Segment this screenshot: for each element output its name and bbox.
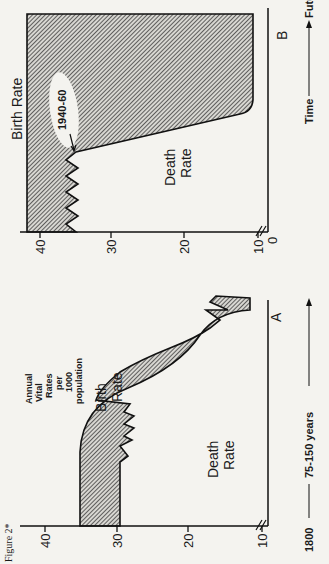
svg-text:Rate: Rate <box>109 372 125 402</box>
svg-text:75-150 years: 75-150 years <box>303 412 315 478</box>
svg-text:Annual: Annual <box>24 374 34 405</box>
panel-a-x-axis-label: 1800 75-150 years <box>303 298 315 552</box>
svg-text:1000: 1000 <box>64 372 74 392</box>
panel-a-death-rate-label: Death Rate <box>205 440 237 478</box>
panel-b-birth-rate-label: Birth Rate <box>9 78 25 140</box>
panel-b-x-axis-label: Time Future <box>303 0 315 124</box>
panel-b-tick-40: 40 <box>33 240 48 254</box>
panel-b-tick-10: 10 <box>251 240 266 254</box>
svg-text:Rates: Rates <box>44 373 54 398</box>
panel-b: 40 30 20 10 0 Birth Rate Death Rate 1940… <box>9 0 315 254</box>
svg-text:Death: Death <box>162 149 178 186</box>
svg-text:1800: 1800 <box>303 528 315 552</box>
panel-b-tick-30: 30 <box>104 240 119 254</box>
svg-text:per: per <box>54 375 64 390</box>
figure-caption: Figure 2* <box>3 523 14 562</box>
panel-b-label: B <box>274 31 290 40</box>
svg-text:Birth: Birth <box>93 383 109 412</box>
panel-b-death-rate-label: Death Rate <box>162 148 194 186</box>
panel-a-tick-10: 10 <box>255 534 270 548</box>
panel-a-tick-30: 30 <box>110 534 125 548</box>
demographic-transition-figure: 40 30 20 10 0 Birth Rate Death Rate 1940… <box>0 0 329 564</box>
panel-a-tick-40: 40 <box>38 534 53 548</box>
svg-text:Rate: Rate <box>221 440 237 470</box>
panel-a-tick-20: 20 <box>181 534 196 548</box>
svg-text:Death: Death <box>205 441 221 478</box>
panel-a-label: A <box>268 312 284 322</box>
panel-b-tick-20: 20 <box>177 240 192 254</box>
svg-text:Rate: Rate <box>178 148 194 178</box>
svg-text:Vital: Vital <box>34 383 44 402</box>
panel-b-1940-60-annotation: 1940-60 <box>56 90 68 130</box>
svg-text:Time: Time <box>303 99 315 124</box>
panel-b-tick-0: 0 <box>265 237 280 244</box>
svg-text:population: population <box>74 358 84 404</box>
y-axis-title: Annual Vital Rates per 1000 population <box>24 358 84 404</box>
svg-text:Future: Future <box>303 0 315 18</box>
panel-a: 40 30 20 10 Birth Rate Death Rate A 1800… <box>20 296 315 552</box>
